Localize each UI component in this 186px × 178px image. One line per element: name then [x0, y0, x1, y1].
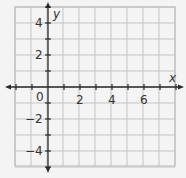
y-axis-label: y [52, 7, 61, 21]
y-tick-label-neg2: −2 [25, 112, 43, 126]
x-axis-left-arrow-icon [5, 85, 11, 90]
x-tick-label-4: 4 [108, 93, 116, 107]
y-tick-label-4: 4 [35, 16, 43, 30]
y-tick-label-2: 2 [35, 48, 43, 62]
x-axis-label: x [168, 71, 177, 85]
coordinate-plane: x y 0 2 4 6 4 2 −2 −4 [0, 0, 186, 178]
x-tick-label-2: 2 [76, 93, 84, 107]
x-tick-label-6: 6 [140, 93, 148, 107]
y-tick-label-neg4: −4 [25, 144, 43, 158]
origin-label: 0 [36, 90, 44, 104]
x-axis-right-arrow-icon [178, 85, 184, 90]
y-axis-down-arrow-icon [46, 167, 51, 173]
